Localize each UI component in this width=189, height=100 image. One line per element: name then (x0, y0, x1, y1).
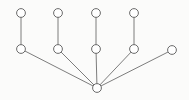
graph-node[interactable] (54, 9, 63, 18)
graph-node[interactable] (54, 45, 63, 54)
graph-diagram (0, 0, 189, 100)
graph-node[interactable] (92, 45, 101, 54)
graph-node[interactable] (168, 46, 177, 55)
graph-edge (25, 51, 93, 86)
graph-node[interactable] (93, 84, 102, 93)
graph-node[interactable] (17, 45, 26, 54)
graph-edge (100, 52, 131, 85)
graph-node[interactable] (92, 9, 101, 18)
graph-node[interactable] (130, 45, 139, 54)
graph-edge (101, 52, 168, 86)
graph-node[interactable] (130, 9, 139, 18)
graph-canvas (0, 0, 189, 100)
graph-node[interactable] (17, 9, 26, 18)
graph-edge (61, 52, 94, 85)
graph-edge (96, 53, 97, 83)
